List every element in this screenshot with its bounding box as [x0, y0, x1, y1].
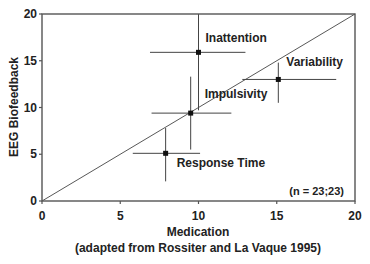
y-axis-title: EEG Biofeedback: [7, 57, 21, 157]
sample-size-note: (n = 23;23): [289, 185, 344, 197]
point-label-inattention: Inattention: [206, 31, 267, 45]
data-point-response-time: [163, 151, 168, 156]
x-tick-label: 15: [270, 209, 284, 223]
data-point-variability: [276, 77, 281, 82]
y-tick-label: 5: [30, 147, 37, 161]
x-tick-label: 0: [39, 209, 46, 223]
x-tick-label: 10: [192, 209, 206, 223]
data-point-impulsivity: [188, 111, 193, 116]
point-label-variability: Variability: [286, 55, 343, 69]
point-label-response-time: Response Time: [177, 156, 266, 170]
x-tick-label: 20: [348, 209, 362, 223]
y-tick-label: 20: [24, 7, 38, 21]
y-tick-label: 0: [30, 194, 37, 208]
scatter-chart: 0510152005101520 InattentionVariabilityI…: [0, 0, 370, 264]
x-tick-label: 5: [117, 209, 124, 223]
y-tick-label: 10: [24, 101, 38, 115]
x-axis-title: Medication: [167, 225, 230, 239]
point-label-impulsivity: Impulsivity: [205, 87, 268, 101]
y-tick-label: 15: [24, 54, 38, 68]
data-point-inattention: [196, 50, 201, 55]
x-axis-subtitle: (adapted from Rossiter and La Vaque 1995…: [75, 241, 321, 255]
